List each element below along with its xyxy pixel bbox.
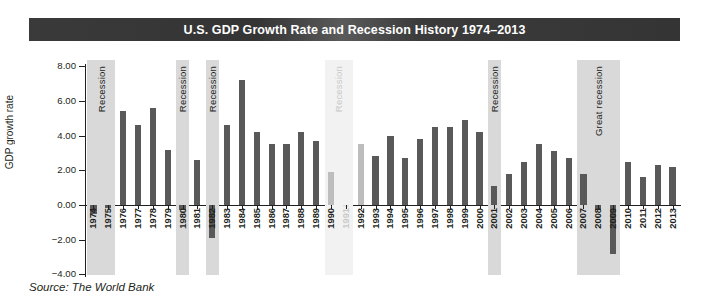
bar-1976: [120, 111, 126, 205]
recession-band: Recession: [176, 60, 189, 275]
y-axis-label-5: −2.00: [52, 234, 76, 245]
bar-2010: [625, 162, 631, 205]
x-axis-label-2006: 2006: [564, 208, 574, 229]
x-axis-label-1983: 1983: [222, 208, 232, 229]
bar-1994: [387, 136, 393, 205]
bar-2007: [580, 174, 586, 205]
y-axis-label-1: 6.00: [57, 95, 76, 106]
x-axis-label-1979: 1979: [163, 208, 173, 229]
y-axis-label-3: 2.00: [57, 164, 76, 175]
x-axis-label-2008: 2008: [593, 208, 603, 229]
bar-1995: [402, 158, 408, 205]
y-tick-6: [79, 274, 86, 275]
x-axis-label-1987: 1987: [281, 208, 291, 229]
bar-1984: [239, 80, 245, 205]
x-axis-label-2009: 2009: [608, 208, 618, 229]
y-axis-label-4: 0.00: [57, 199, 76, 210]
x-axis-label-1991: 1991: [341, 208, 351, 229]
x-axis-label-1986: 1986: [267, 208, 277, 229]
x-axis-label-2004: 2004: [534, 208, 544, 229]
bar-2005: [551, 151, 557, 205]
x-axis-label-1995: 1995: [400, 208, 410, 229]
y-tick-3: [79, 170, 86, 171]
bar-1990: [328, 172, 334, 205]
recession-band: Recession: [488, 60, 501, 275]
bar-1998: [447, 127, 453, 205]
bar-1988: [298, 132, 304, 205]
x-axis-label-2013: 2013: [668, 208, 678, 229]
page-title: U.S. GDP Growth Rate and Recession Histo…: [184, 23, 526, 37]
bar-1986: [269, 144, 275, 205]
bar-1999: [462, 120, 468, 205]
bar-2002: [506, 174, 512, 205]
bar-1983: [224, 125, 230, 205]
bar-1979: [165, 150, 171, 205]
bar-1981: [194, 160, 200, 205]
y-axis-label-2: 4.00: [57, 130, 76, 141]
bar-2006: [566, 158, 572, 205]
x-axis-label-1981: 1981: [192, 208, 202, 229]
x-axis-label-1990: 1990: [326, 208, 336, 229]
x-axis-label-1978: 1978: [148, 208, 158, 229]
bar-1987: [283, 144, 289, 205]
x-axis-label-2002: 2002: [504, 208, 514, 229]
x-axis-label-2012: 2012: [653, 208, 663, 229]
x-axis-label-2011: 2011: [638, 208, 648, 228]
recession-band-label: Recession: [207, 66, 218, 112]
bar-1993: [372, 156, 378, 205]
x-axis-label-1985: 1985: [252, 208, 262, 229]
y-tick-4: [79, 205, 86, 206]
plot-area: RecessionRecessionRecessionRecessionRece…: [86, 60, 680, 275]
bar-1996: [417, 139, 423, 205]
x-axis-label-1975: 1975: [103, 208, 113, 229]
bar-1989: [313, 141, 319, 205]
bar-2003: [521, 162, 527, 205]
x-axis-label-1994: 1994: [385, 208, 395, 229]
bar-2012: [655, 165, 661, 205]
source-note: Source: The World Bank: [29, 281, 154, 293]
recession-band: Recession: [206, 60, 219, 275]
bar-2000: [476, 132, 482, 205]
x-axis-label-1999: 1999: [460, 208, 470, 229]
x-axis-label-1989: 1989: [311, 208, 321, 229]
x-axis-label-2003: 2003: [519, 208, 529, 229]
recession-band-label: Great recession: [593, 66, 604, 136]
x-axis-label-1988: 1988: [296, 208, 306, 229]
x-axis-label-2007: 2007: [578, 208, 588, 229]
x-axis-label-2010: 2010: [623, 208, 633, 229]
bar-1992: [358, 144, 364, 205]
x-axis-label-2000: 2000: [475, 208, 485, 229]
y-axis-label-0: 8.00: [57, 60, 76, 71]
y-axis-title: GDP growth rate: [4, 95, 15, 169]
x-axis-label-1984: 1984: [237, 208, 247, 229]
y-axis-label-6: −4.00: [52, 268, 76, 279]
bar-2011: [640, 177, 646, 205]
y-tick-2: [79, 136, 86, 137]
x-axis-label-1982: 1982: [207, 208, 217, 229]
bar-1985: [254, 132, 260, 205]
bar-1997: [432, 127, 438, 205]
x-axis-label-1977: 1977: [133, 208, 143, 229]
x-axis-label-1992: 1992: [356, 208, 366, 229]
bar-2004: [536, 144, 542, 205]
recession-band: Recession: [325, 60, 353, 275]
x-axis-label-1980: 1980: [178, 208, 188, 229]
chart-title-band: U.S. GDP Growth Rate and Recession Histo…: [29, 18, 680, 41]
recession-band-label: Recession: [489, 66, 500, 112]
x-axis-label-1976: 1976: [118, 208, 128, 229]
x-axis-label-2005: 2005: [549, 208, 559, 229]
bar-2013: [669, 167, 675, 205]
y-tick-5: [79, 240, 86, 241]
bar-2001: [491, 186, 497, 205]
bar-1978: [150, 108, 156, 205]
recession-band-label: Recession: [177, 66, 188, 112]
x-axis-label-2001: 2001: [489, 208, 499, 229]
y-tick-1: [79, 101, 86, 102]
x-axis-label-1993: 1993: [371, 208, 381, 229]
recession-band: Recession: [87, 60, 115, 275]
x-axis-label-1996: 1996: [415, 208, 425, 229]
x-axis-label-1998: 1998: [445, 208, 455, 229]
bar-1977: [135, 125, 141, 205]
x-axis-label-1974: 1974: [88, 208, 98, 229]
recession-band-label: Recession: [96, 66, 107, 112]
